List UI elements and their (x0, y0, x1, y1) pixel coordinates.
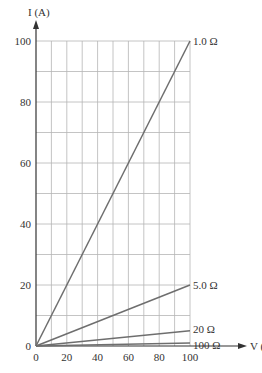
y-tick-label: 100 (15, 35, 32, 47)
series-label: 20 Ω (193, 323, 215, 335)
series-label: 1.0 Ω (193, 35, 218, 47)
x-tick-label: 20 (61, 351, 73, 363)
y-axis-label: I (A) (28, 6, 50, 19)
chart: 020406080100020406080100 1.0 Ω5.0 Ω20 Ω1… (0, 0, 262, 373)
axes (33, 20, 247, 349)
x-tick-label: 0 (33, 351, 39, 363)
x-tick-label: 80 (154, 351, 166, 363)
x-tick-label: 100 (182, 351, 199, 363)
series-label: 5.0 Ω (193, 279, 218, 291)
y-tick-label: 80 (20, 96, 32, 108)
series-label: 100 Ω (193, 339, 220, 351)
y-tick-label: 60 (20, 157, 32, 169)
x-tick-label: 40 (92, 351, 104, 363)
x-tick-label: 60 (123, 351, 135, 363)
y-tick-label: 40 (20, 218, 32, 230)
x-axis-label: V (V) (250, 340, 262, 353)
y-tick-label: 0 (26, 340, 32, 352)
y-axis-arrow-icon (33, 20, 39, 29)
tick-labels: 020406080100020406080100 (15, 35, 199, 363)
y-tick-label: 20 (20, 279, 32, 291)
series-labels: 1.0 Ω5.0 Ω20 Ω100 Ω (193, 35, 220, 351)
x-axis-arrow-icon (238, 343, 247, 349)
